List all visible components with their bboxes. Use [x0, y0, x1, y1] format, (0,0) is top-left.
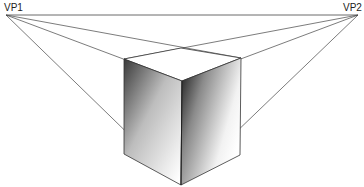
vp2-label: VP2 [343, 3, 362, 13]
cube-left-face [124, 59, 182, 185]
vp1-label: VP1 [4, 3, 23, 13]
cube-drawing [0, 0, 364, 187]
perspective-diagram: VP1 VP2 [0, 0, 364, 187]
